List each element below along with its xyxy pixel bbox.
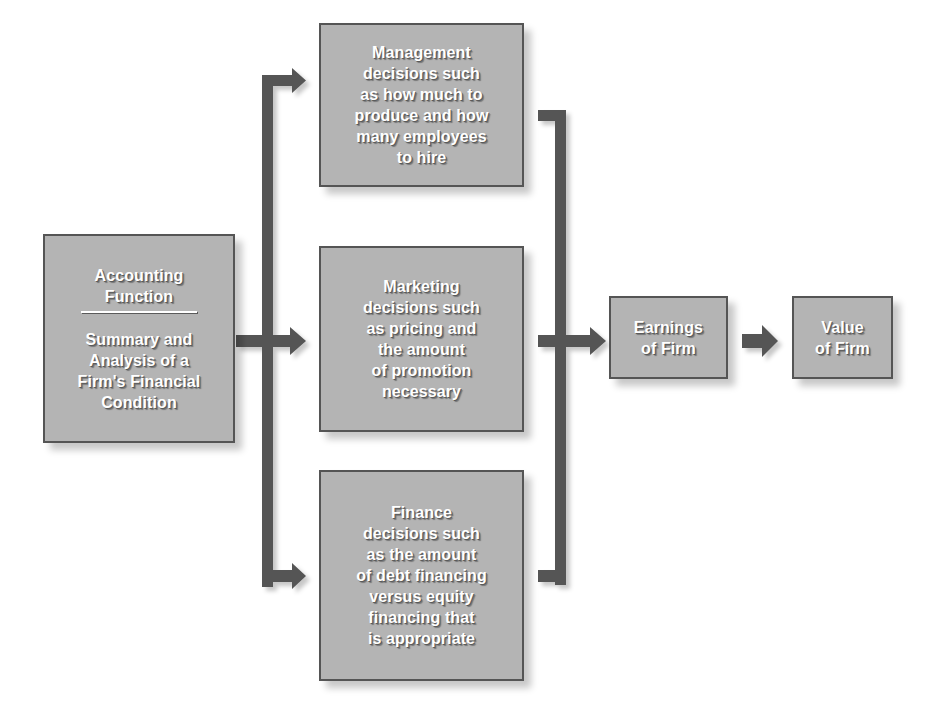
box-text-line: Management <box>372 42 471 63</box>
earnings-of-firm-box: Earnings of Firm <box>609 296 728 379</box>
box-text-line: decisions such <box>363 523 480 544</box>
box-text-line: the amount <box>378 339 465 360</box>
box-text-line: versus equity <box>369 586 473 607</box>
box-text-line: to hire <box>397 147 447 168</box>
box-text-line: Function <box>105 286 173 307</box>
right-bracket-top-tab <box>538 110 566 121</box>
box-text-line: Analysis of a <box>89 350 189 371</box>
box-text-line: as how much to <box>360 84 482 105</box>
right-bracket-bottom-tab <box>538 570 566 582</box>
box-text-line: financing that <box>368 607 474 628</box>
box-text-line: Earnings <box>634 317 703 338</box>
box-text-line: Finance <box>391 502 452 523</box>
box-text-line: decisions such <box>363 297 480 318</box>
box-text-line: produce and how <box>355 105 489 126</box>
box-text-line: as pricing and <box>367 318 477 339</box>
management-decisions-box: Management decisions such as how much to… <box>319 23 524 187</box>
finance-decisions-box: Finance decisions such as the amount of … <box>319 470 524 681</box>
box-text-line: decisions such <box>363 63 480 84</box>
box-text-line: necessary <box>382 381 461 402</box>
arrow-right-icon <box>742 325 778 357</box>
accounting-function-title: Accounting Function <box>81 265 197 329</box>
left-bracket-bar <box>262 75 273 587</box>
accounting-function-box: Accounting Function Summary and Analysis… <box>43 234 235 443</box>
right-bracket-bar <box>555 110 566 585</box>
value-of-firm-box: Value of Firm <box>792 296 893 379</box>
marketing-decisions-box: Marketing decisions such as pricing and … <box>319 246 524 432</box>
box-text-line: of Firm <box>641 338 696 359</box>
box-text-line: of promotion <box>372 360 472 381</box>
box-text-line: Firm's Financial <box>78 371 201 392</box>
box-text-line: of Firm <box>815 338 870 359</box>
box-text-line: many employees <box>356 126 486 147</box>
box-text-line: as the amount <box>367 544 477 565</box>
box-text-line: is appropriate <box>368 628 475 649</box>
box-text-line: of debt financing <box>356 565 487 586</box>
box-text-line: Marketing <box>383 276 459 297</box>
box-text-line: Value <box>821 317 863 338</box>
arrow-right-icon <box>538 327 606 355</box>
box-text-line: Accounting <box>95 265 184 286</box>
box-text-line: Condition <box>101 392 177 413</box>
title-underline <box>81 311 197 313</box>
box-text-line: Summary and <box>86 329 193 350</box>
